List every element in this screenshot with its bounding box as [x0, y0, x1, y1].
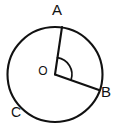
geometry-canvas: A B C O	[0, 0, 118, 129]
circle-geometry-diagram: A B C O	[0, 0, 118, 129]
label-center-o: O	[38, 64, 47, 78]
radius-oa-line	[55, 27, 62, 75]
label-point-c: C	[11, 104, 21, 120]
label-point-a: A	[52, 1, 62, 18]
label-point-b: B	[101, 83, 111, 100]
radius-ob-line	[55, 75, 99, 91]
